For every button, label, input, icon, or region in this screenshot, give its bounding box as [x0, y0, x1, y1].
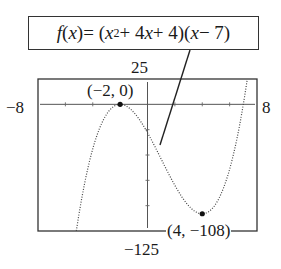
relative-min-label: (4, −108): [166, 222, 231, 239]
ymin-label: −125: [124, 241, 159, 258]
relative-min-point: [200, 211, 205, 216]
xmin-label: −8: [6, 99, 24, 116]
eq-tail: − 7): [199, 22, 230, 44]
leader-line: [160, 50, 190, 145]
eq-x1: x: [105, 22, 113, 44]
function-equation-box: f(x) = (x2 + 4x + 4)(x − 7): [28, 16, 259, 50]
eq-x2: x: [144, 22, 152, 44]
xmax-label: 8: [262, 99, 271, 116]
eq-arg: (x): [62, 22, 83, 44]
ymax-label: 25: [131, 59, 148, 76]
eq-x3: x: [190, 22, 198, 44]
relative-max-point: [118, 102, 123, 107]
eq-equals: = (: [83, 22, 105, 44]
function-curve: [76, 80, 247, 231]
relative-max-label: (−2, 0): [87, 82, 133, 99]
eq-mid: + 4: [119, 22, 144, 44]
eq-mid2: + 4)(: [153, 22, 191, 44]
